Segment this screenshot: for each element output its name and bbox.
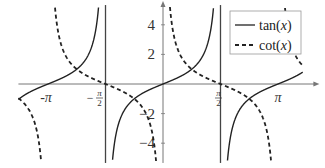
tan-cot-chart: 42−2−4-π−π2π2π tan(x)cot(x) — [0, 0, 325, 168]
x-tick-label-denominator: 2 — [216, 98, 221, 108]
cot-legend-label: cot(x) — [259, 38, 292, 54]
x-tick-label-numerator: π — [216, 88, 221, 98]
legend: tan(x)cot(x) — [230, 11, 301, 54]
y-axis-arrow — [161, 1, 166, 7]
y-tick-label: 2 — [148, 46, 156, 62]
x-tick-label-numerator: π — [97, 88, 102, 98]
tan-legend-label: tan(x) — [259, 18, 292, 34]
y-tick-label: 4 — [148, 17, 156, 33]
x-tick-label-denominator: 2 — [97, 98, 102, 108]
x-axis-arrow — [313, 82, 319, 87]
x-tick-label: -π — [40, 90, 53, 105]
x-tick-label-sign: − — [87, 91, 94, 105]
x-tick-label: π — [274, 90, 282, 105]
y-tick-label: −2 — [139, 106, 155, 122]
